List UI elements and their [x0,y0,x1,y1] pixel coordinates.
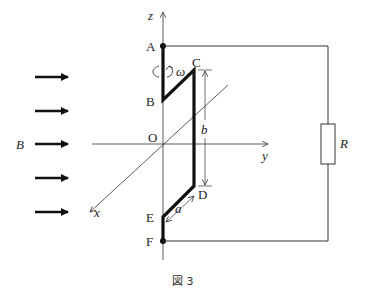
origin-label: O [148,130,157,145]
point-b-label: B [146,94,155,109]
dim-b-label: b [201,122,208,137]
point-e-label: E [146,210,154,225]
point-d-label: D [198,187,207,202]
dim-a-label: a [175,201,182,216]
point-a-label: A [146,39,156,54]
wire-bottom [163,164,328,241]
z-axis-label: z [147,8,153,23]
point-c-label: C [192,55,201,70]
diagram-canvas: B z y x O R A B C D E F ω b a 図 3 [0,0,365,297]
field-arrows [35,77,68,212]
omega-label: ω [176,64,185,79]
figure-caption: 図 3 [172,275,194,288]
resistor-label: R [339,136,348,151]
x-axis-label: x [93,205,100,220]
field-label: B [16,137,24,152]
y-axis-label: y [260,148,268,163]
resistor [321,124,335,164]
wire-top [163,46,328,124]
point-f-label: F [146,234,153,249]
